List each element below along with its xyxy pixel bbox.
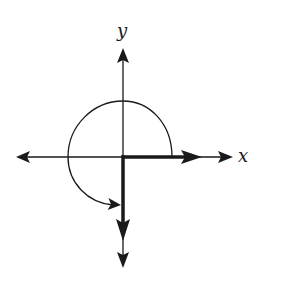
initial-vector [122, 150, 202, 164]
rotation-diagram: y x [0, 0, 282, 292]
y-axis-label: y [116, 20, 128, 41]
x-axis-label: x [238, 145, 248, 166]
terminal-vector [116, 155, 130, 241]
